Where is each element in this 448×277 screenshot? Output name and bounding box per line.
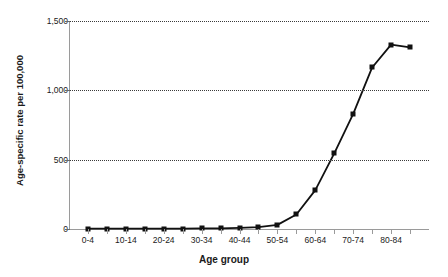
x-tick-mark bbox=[183, 229, 184, 234]
data-point-marker bbox=[332, 151, 337, 156]
x-axis-tick-labels: 0-410-1420-2430-3440-4450-5460-6470-7480… bbox=[69, 235, 429, 251]
x-tick-mark bbox=[202, 229, 203, 234]
x-tick-label: 60-64 bbox=[304, 235, 326, 245]
data-point-marker bbox=[351, 111, 356, 116]
x-tick-mark bbox=[258, 229, 259, 234]
x-axis-title: Age group bbox=[0, 254, 448, 265]
x-tick-label: 20-24 bbox=[153, 235, 175, 245]
x-tick-label: 80-84 bbox=[380, 235, 402, 245]
line-series-path bbox=[69, 21, 429, 229]
x-tick-mark bbox=[107, 229, 108, 234]
y-tick-label: 500 bbox=[28, 155, 68, 165]
y-tick-mark bbox=[65, 229, 70, 230]
y-axis-title-text: Age-specific rate per 100,000 bbox=[14, 55, 25, 186]
x-tick-label: 40-44 bbox=[229, 235, 251, 245]
data-point-marker bbox=[275, 222, 280, 227]
x-tick-mark bbox=[315, 229, 316, 234]
y-tick-label: 0 bbox=[28, 224, 68, 234]
y-tick-label: 1,500 bbox=[28, 16, 68, 26]
chart-container: Age-specific rate per 100,000 05001,0001… bbox=[0, 0, 448, 277]
x-tick-mark bbox=[372, 229, 373, 234]
y-tick-label: 1,000 bbox=[28, 85, 68, 95]
x-tick-mark bbox=[353, 229, 354, 234]
x-tick-mark bbox=[240, 229, 241, 234]
x-tick-mark bbox=[277, 229, 278, 234]
x-tick-mark bbox=[126, 229, 127, 234]
x-tick-mark bbox=[410, 229, 411, 234]
x-tick-mark bbox=[88, 229, 89, 234]
data-point-marker bbox=[294, 212, 299, 217]
x-tick-mark bbox=[145, 229, 146, 234]
gridline bbox=[69, 90, 429, 91]
data-point-marker bbox=[313, 188, 318, 193]
data-point-marker bbox=[370, 65, 375, 70]
x-tick-label: 30-34 bbox=[191, 235, 213, 245]
x-tick-label: 50-54 bbox=[267, 235, 289, 245]
gridline bbox=[69, 21, 429, 22]
x-tick-mark bbox=[391, 229, 392, 234]
x-tick-mark bbox=[296, 229, 297, 234]
x-tick-label: 10-14 bbox=[115, 235, 137, 245]
plot-area bbox=[69, 21, 429, 229]
data-point-marker bbox=[389, 42, 394, 47]
gridline bbox=[69, 160, 429, 161]
x-tick-label: 0-4 bbox=[82, 235, 94, 245]
y-tick-mark bbox=[65, 90, 70, 91]
y-tick-mark bbox=[65, 21, 70, 22]
x-tick-mark bbox=[164, 229, 165, 234]
data-point-marker bbox=[408, 45, 413, 50]
y-axis-tick-labels: 05001,0001,500 bbox=[24, 0, 68, 277]
y-tick-mark bbox=[65, 160, 70, 161]
x-tick-label: 70-74 bbox=[342, 235, 364, 245]
x-tick-mark bbox=[334, 229, 335, 234]
x-tick-mark bbox=[221, 229, 222, 234]
